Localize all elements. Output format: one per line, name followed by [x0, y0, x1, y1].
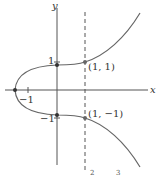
- chart: y x −1 1 −1 (1, 1) (1, −1) 2 3: [0, 0, 159, 175]
- tick-y-neg1-label: −1: [40, 113, 55, 124]
- point-y-intercept-lower: [55, 113, 59, 117]
- point-x-intercept: [13, 88, 17, 92]
- point-y-intercept-upper: [55, 63, 59, 67]
- point-upper-label: (1, 1): [88, 61, 115, 72]
- x-axis-label: x: [150, 84, 156, 95]
- caption-sup-2: 2: [90, 169, 94, 175]
- y-axis-label: y: [51, 0, 58, 11]
- tick-x-neg1-label: −1: [19, 94, 34, 105]
- point-lower-label: (1, −1): [88, 108, 123, 119]
- point-1-1: [83, 60, 87, 64]
- tick-y-1-label: 1: [48, 55, 54, 66]
- point-1-neg1: [83, 116, 87, 120]
- caption-sup-3: 3: [116, 169, 120, 175]
- curve-upper: [15, 13, 140, 90]
- curve-lower: [15, 90, 140, 167]
